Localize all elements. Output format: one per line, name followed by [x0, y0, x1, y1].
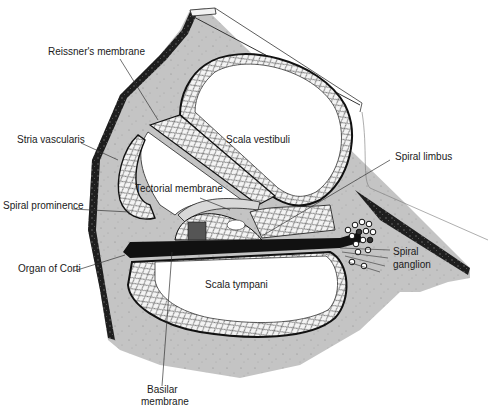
label-scala-vestibuli: Scala vestibuli: [226, 134, 290, 145]
label-reissners-membrane: Reissner's membrane: [48, 46, 145, 57]
label-spiral-limbus: Spiral limbus: [395, 151, 452, 162]
label-spiral-ganglion-line2: ganglion: [393, 259, 431, 270]
label-organ-of-corti: Organ of Corti: [18, 263, 81, 274]
label-stria-vascularis: Stria vascularis: [17, 134, 85, 145]
label-scala-tympani: Scala tympani: [205, 279, 268, 290]
cochlea-diagram: Reissner's membrane Scala vestibuli Stri…: [0, 0, 490, 409]
label-spiral-prominence: Spiral prominence: [3, 200, 84, 211]
label-basilar-membrane-line2: membrane: [141, 396, 189, 407]
label-basilar-membrane-line1: Basilar: [147, 384, 178, 395]
label-spiral-ganglion-line1: Spiral: [393, 246, 419, 257]
label-tectorial-membrane: Tectorial membrane: [135, 183, 223, 194]
